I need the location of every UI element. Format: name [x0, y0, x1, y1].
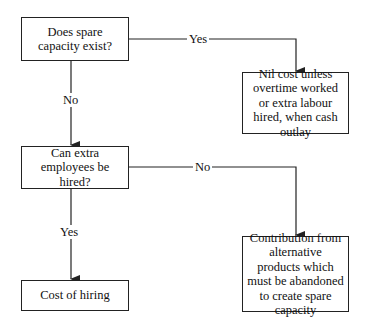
edge-label-no-middle: No	[193, 160, 212, 174]
decision-spare-capacity: Does spare capacity exist?	[21, 17, 129, 61]
edge-label-yes-top: Yes	[187, 32, 209, 46]
result-nil-cost: Nil cost unless overtime worked or extra…	[242, 72, 349, 134]
edge-q2-r2	[129, 167, 296, 235]
decision-extra-employees-text: Can extra employees be hired?	[26, 146, 124, 190]
result-cost-of-hiring-text: Cost of hiring	[40, 288, 109, 303]
decision-spare-capacity-text: Does spare capacity exist?	[26, 25, 124, 54]
result-contribution-text: Contribution from alternative products w…	[247, 231, 344, 318]
result-nil-cost-text: Nil cost unless overtime worked or extra…	[247, 67, 344, 140]
decision-extra-employees: Can extra employees be hired?	[21, 146, 129, 189]
result-contribution: Contribution from alternative products w…	[242, 236, 349, 312]
edge-label-no-left: No	[61, 93, 80, 107]
result-cost-of-hiring: Cost of hiring	[21, 280, 129, 311]
edge-label-yes-bottom: Yes	[58, 225, 80, 239]
